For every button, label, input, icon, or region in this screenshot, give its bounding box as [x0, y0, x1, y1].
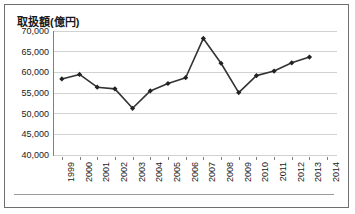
x-axis-tickmark — [274, 157, 275, 160]
y-axis-tick-label: 70,000 — [5, 26, 49, 36]
x-axis-tick-label: 2006 — [190, 162, 200, 182]
x-axis-tick-label: 2008 — [225, 162, 235, 182]
y-axis-tick-label: 60,000 — [5, 67, 49, 77]
x-axis-tickmark — [115, 157, 116, 160]
data-point-marker — [59, 76, 64, 81]
data-point-marker — [271, 68, 276, 73]
x-axis-tickmark — [97, 157, 98, 160]
y-axis-tick-label: 65,000 — [5, 47, 49, 57]
x-axis-tickmark — [256, 157, 257, 160]
x-axis-tickmark — [133, 157, 134, 160]
x-axis-tick-label: 2014 — [331, 162, 341, 182]
x-axis-tickmark — [292, 157, 293, 160]
page-bottom-rule — [14, 194, 334, 195]
y-axis-tick-label: 50,000 — [5, 109, 49, 119]
x-axis-tick-label: 2003 — [137, 162, 147, 182]
x-axis-tickmark — [80, 157, 81, 160]
x-axis-tickmark — [221, 157, 222, 160]
y-axis-tick-label: 45,000 — [5, 129, 49, 139]
x-axis-tickmark — [203, 157, 204, 160]
series-line — [62, 38, 310, 108]
x-axis-tickmark — [186, 157, 187, 160]
chart-frame: 取扱額(億円) 70,00065,00060,00055,00050,00045… — [4, 4, 349, 208]
x-axis-tick-label: 2001 — [101, 162, 111, 182]
data-point-marker — [183, 75, 188, 80]
x-axis-labels: 1999200020012002200320042005200620072008… — [53, 157, 336, 205]
x-axis-tickmark — [327, 157, 328, 160]
x-axis-tick-label: 2010 — [260, 162, 270, 182]
x-axis-tickmark — [62, 157, 63, 160]
y-axis-labels: 70,00065,00060,00055,00050,00045,00040,0… — [5, 31, 50, 155]
plot-wrapper: 70,00065,00060,00055,00050,00045,00040,0… — [5, 5, 350, 209]
x-axis-tickmark — [150, 157, 151, 160]
x-axis-tick-label: 1999 — [66, 162, 76, 182]
x-axis-tick-label: 2004 — [154, 162, 164, 182]
y-axis-tick-label: 40,000 — [5, 150, 49, 160]
x-axis-tick-label: 2011 — [278, 162, 288, 181]
x-axis-tick-label: 2002 — [119, 162, 129, 182]
x-axis-tick-label: 2012 — [296, 162, 306, 182]
data-point-marker — [307, 54, 312, 59]
data-point-marker — [289, 60, 294, 65]
x-axis-tickmark — [239, 157, 240, 160]
x-axis-tick-label: 2013 — [313, 162, 323, 182]
x-axis-tick-label: 2007 — [207, 162, 217, 182]
x-axis-tick-label: 2009 — [243, 162, 253, 182]
data-point-marker — [165, 81, 170, 86]
line-series — [53, 31, 336, 155]
x-axis-tick-label: 2005 — [172, 162, 182, 182]
x-axis-tickmark — [168, 157, 169, 160]
x-axis-tickmark — [309, 157, 310, 160]
y-axis-tick-label: 55,000 — [5, 88, 49, 98]
x-axis-tick-label: 2000 — [84, 162, 94, 182]
